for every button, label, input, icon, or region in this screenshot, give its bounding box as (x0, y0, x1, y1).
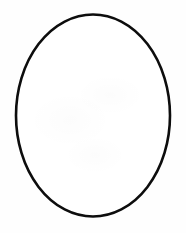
ellipse-outline (16, 15, 170, 217)
shape-layer (0, 0, 186, 233)
drawing-canvas (0, 0, 186, 233)
